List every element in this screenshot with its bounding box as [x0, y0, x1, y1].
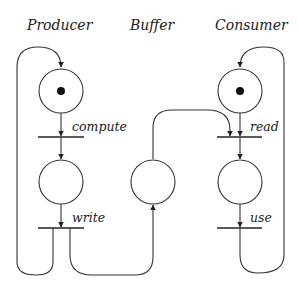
transition-write-label: write: [72, 210, 105, 225]
producer-header: Producer: [26, 17, 94, 33]
token-icon: [236, 87, 244, 95]
place-buffer: [131, 160, 175, 204]
transition-compute-label: compute: [72, 119, 127, 134]
petri-net-diagram: Producer Buffer Consumer compute write r…: [0, 0, 298, 287]
arc-buffer-to-read: [153, 110, 230, 159]
place-producer-write: [39, 160, 83, 204]
token-icon: [57, 87, 65, 95]
transition-use-label: use: [250, 210, 272, 225]
consumer-header: Consumer: [215, 17, 289, 33]
place-consumer-use: [218, 160, 262, 204]
transition-read-label: read: [250, 119, 279, 134]
buffer-header: Buffer: [129, 17, 176, 33]
